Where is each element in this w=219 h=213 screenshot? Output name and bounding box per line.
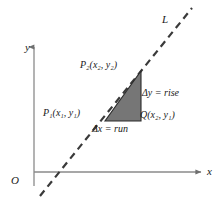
point-label-p2: P₂(x₂, y₂) bbox=[80, 60, 117, 70]
run-label: Δx = run bbox=[92, 124, 128, 134]
y-axis-label: y bbox=[25, 42, 30, 53]
origin-label: O bbox=[11, 175, 19, 186]
line-L bbox=[40, 8, 192, 196]
x-axis-label: x bbox=[207, 166, 212, 177]
point-label-q: Q(x₂, y₁) bbox=[140, 110, 175, 120]
rise-label: Δy = rise bbox=[142, 88, 179, 98]
diagram-canvas bbox=[0, 0, 219, 213]
slope-diagram-figure: L y x O P₂(x₂, y₂) P₁(x₁, y₁) Q(x₂, y₁) … bbox=[0, 0, 219, 213]
rise-run-triangle bbox=[105, 71, 141, 121]
line-label-L: L bbox=[162, 14, 168, 25]
point-label-p1: P₁(x₁, y₁) bbox=[43, 108, 80, 118]
